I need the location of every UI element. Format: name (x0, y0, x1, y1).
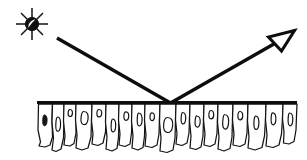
cell-column (233, 104, 249, 147)
diagram-canvas: Light reflection from a cellular surface… (0, 0, 307, 160)
cell-nucleus (56, 117, 61, 131)
cell-layer (38, 104, 297, 153)
light-reflection-diagram: Light reflection from a cellular surface… (0, 0, 307, 160)
cell-nucleus (150, 113, 154, 121)
cell-nucleus (238, 112, 243, 120)
cell-nucleus (97, 110, 102, 117)
cell-column (145, 104, 161, 148)
cell-nucleus (254, 116, 259, 129)
cell-nucleus (164, 118, 173, 133)
cell-column (266, 104, 284, 148)
cell-column (119, 104, 133, 147)
cell-nucleus (68, 110, 72, 117)
cell-nucleus (43, 115, 47, 126)
cell-nucleus (111, 119, 116, 132)
cell-nucleus (209, 111, 214, 119)
cell-column (176, 104, 191, 146)
cell-nucleus (181, 112, 186, 123)
cell-nucleus (195, 116, 200, 127)
cell-nucleus (81, 111, 88, 124)
cell-nucleus (223, 114, 229, 129)
cell-nucleus (271, 113, 276, 125)
sun-core-disc (25, 17, 38, 30)
cell-nucleus (137, 113, 142, 126)
cell-nucleus (288, 113, 293, 126)
cell-nucleus (124, 112, 129, 121)
cell-column (132, 104, 146, 150)
